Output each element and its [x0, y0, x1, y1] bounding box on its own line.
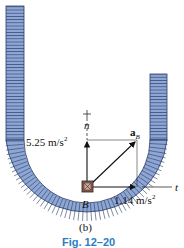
t-axis-label: t	[175, 182, 178, 193]
block-b	[82, 181, 93, 192]
n-axis-label: n	[84, 120, 90, 131]
right-track	[150, 74, 167, 140]
normal-accel-label: 5.25 m/s2	[26, 136, 67, 148]
point-b-label: B	[82, 199, 89, 210]
figure-caption: Fig. 12–20	[62, 237, 115, 248]
resultant-accel-arrow	[90, 142, 135, 185]
left-track	[6, 6, 24, 140]
tangential-accel-label: 1.14 m/s2	[114, 194, 155, 206]
resultant-accel-label: aB	[130, 127, 140, 141]
panel-label: (b)	[79, 222, 92, 233]
